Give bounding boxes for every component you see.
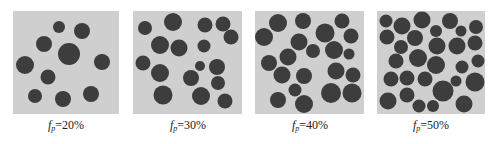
particle-circle	[407, 30, 423, 46]
particle-circle	[384, 72, 399, 87]
particle-circle	[295, 95, 313, 113]
particle-circle	[414, 12, 431, 29]
particle-circle	[296, 68, 312, 84]
particle-circle	[418, 72, 433, 87]
particle-circle	[472, 55, 485, 68]
particle-circle	[328, 63, 345, 80]
particle-circle	[400, 71, 415, 86]
particle-circle	[218, 94, 233, 109]
particle-circle	[255, 28, 273, 46]
panel-fp-50	[377, 11, 485, 114]
particle-circle	[151, 36, 169, 54]
particle-circle	[16, 56, 34, 74]
particle-circle	[343, 84, 362, 103]
particle-circle	[394, 18, 411, 35]
particle-circle	[389, 54, 404, 69]
particle-circle	[394, 40, 408, 54]
particle-circle	[198, 18, 213, 33]
particle-circle	[183, 70, 199, 86]
panel-fp-20	[13, 11, 119, 114]
particle-circle	[380, 15, 393, 28]
particle-circle	[413, 100, 426, 113]
label-fp-40: fp=40%	[292, 118, 328, 133]
particle-circle	[291, 34, 308, 51]
particle-circle	[456, 26, 467, 37]
particle-circle	[430, 25, 442, 37]
particle-circle	[380, 30, 395, 45]
particle-circle	[41, 70, 56, 85]
particle-circle	[192, 87, 210, 105]
particle-circle	[28, 89, 42, 103]
particle-circle	[74, 23, 90, 39]
particle-circle	[216, 17, 231, 32]
particle-circle	[468, 36, 483, 51]
label-fp-20: fp=20%	[48, 118, 84, 133]
particle-circle	[466, 73, 485, 92]
particle-circle	[198, 40, 211, 53]
particle-field	[13, 11, 119, 114]
panel-fp-40	[255, 11, 364, 114]
particle-circle	[151, 64, 169, 82]
particle-circle	[456, 61, 469, 74]
particle-circle	[427, 56, 445, 74]
particle-circle	[316, 24, 335, 43]
panel-fp-30	[133, 11, 242, 114]
particle-circle	[325, 41, 343, 59]
particle-circle	[224, 30, 239, 45]
particle-circle	[261, 55, 277, 71]
particle-circle	[53, 21, 65, 33]
particle-circle	[55, 91, 71, 107]
particle-circle	[164, 13, 182, 31]
particle-circle	[400, 88, 415, 103]
label-fp-50: fp=50%	[413, 118, 449, 133]
particle-circle	[335, 14, 350, 29]
particle-circle	[270, 92, 286, 108]
particle-circle	[469, 20, 483, 34]
particle-circle	[58, 43, 80, 65]
particle-circle	[295, 13, 311, 29]
particle-circle	[136, 56, 151, 71]
particle-circle	[429, 38, 446, 55]
particle-circle	[321, 83, 341, 103]
particle-circle	[344, 49, 355, 60]
particle-circle	[211, 76, 225, 90]
particle-circle	[154, 86, 173, 105]
particle-circle	[306, 44, 320, 58]
particle-circle	[380, 93, 397, 110]
particle-circle	[427, 100, 439, 112]
particle-circle	[269, 14, 287, 32]
particle-circle	[36, 36, 52, 52]
particle-circle	[451, 76, 462, 87]
particle-circle	[138, 21, 152, 35]
particle-circle	[442, 13, 458, 29]
particle-circle	[409, 49, 427, 67]
particle-field	[377, 11, 485, 114]
particle-circle	[346, 68, 361, 83]
particle-circle	[433, 81, 454, 102]
particle-circle	[209, 59, 225, 75]
particle-circle	[83, 86, 99, 102]
particle-circle	[289, 84, 302, 97]
particle-circle	[274, 67, 291, 84]
particle-circle	[195, 61, 205, 71]
particle-field	[255, 11, 364, 114]
label-fp-30: fp=30%	[170, 118, 206, 133]
particle-circle	[280, 49, 297, 66]
particle-circle	[456, 96, 473, 113]
particle-field	[133, 11, 242, 114]
particle-circle	[449, 38, 466, 55]
particle-circle	[344, 29, 359, 44]
particle-circle	[94, 54, 110, 70]
particle-circle	[171, 40, 188, 57]
